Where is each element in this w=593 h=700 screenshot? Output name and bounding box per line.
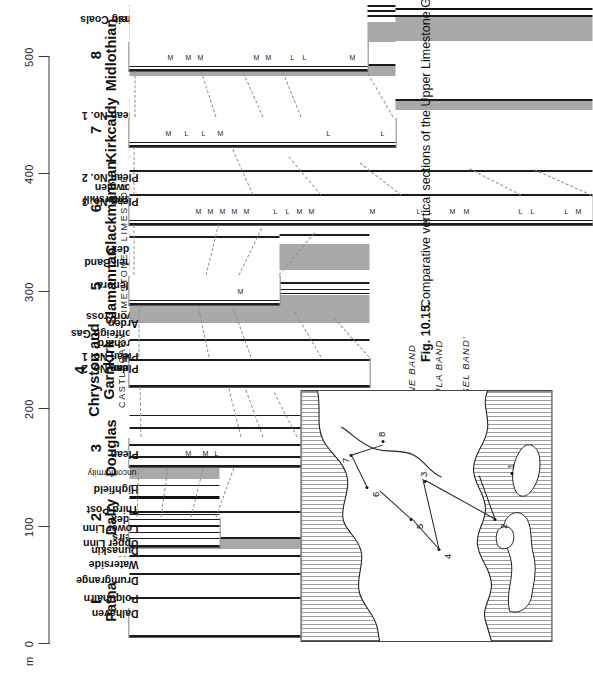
bed-sandstone [129,539,219,543]
correlation-line [138,305,139,357]
bed-sandstone [129,515,219,519]
section-number-7: 7 [88,97,102,162]
correlation-line [134,71,135,117]
marine-band-marker: M [202,450,208,457]
marine-band-marker: M [165,130,171,137]
bed-sandstone [129,575,315,595]
scale-unit-label: m [22,657,34,666]
locality-map: 1 2 3 4 5 6 7 8 [300,390,552,642]
lingula-band-marker: L [380,130,384,137]
marine-band-marker: M [369,208,375,215]
bed-label: Plean [110,449,138,461]
lingula-band-marker: L [214,450,218,457]
lingula-band-marker: L [285,208,289,215]
column-patna [128,608,316,638]
locality-dot-1 [510,472,513,475]
locality-label-1: 1 [504,464,515,469]
lingula-band-marker: L [201,130,205,137]
bed-label: Waterside [88,559,138,571]
bed-sandstone [129,238,279,300]
bed-label: Dalhaven [91,608,138,620]
scale-label-500: 500 [22,47,34,67]
lingula-band-marker: L [273,208,277,215]
figure-number: Fig. 10.15. [418,302,432,362]
bed-coal [129,514,219,515]
scale-tick-100 [38,526,49,527]
bed-sandstone [129,533,219,538]
map-landmass-north [301,391,379,641]
bed-sandstone [129,520,219,523]
bed-label: Polquhairn [83,593,138,605]
bed-sandstone [129,172,592,192]
bed-sandstone [129,323,369,337]
section-number-8: 8 [88,19,102,92]
marine-band-marker: M [237,288,243,295]
scale-bar: m 0 100 200 300 400 500 [26,56,60,644]
column-chryston-garnkirk [128,358,370,388]
bed-limestone [129,66,367,71]
marine-band-marker: M [219,208,225,215]
bed-coal [129,485,219,486]
scale-label-200: 200 [22,399,34,419]
bed-limestone [129,357,369,361]
lingula-band-marker: L [564,208,568,215]
locality-label-8: 8 [375,432,386,437]
marine-band-marker: M [217,130,223,137]
marine-band-marker: M [575,208,581,215]
bed-limestone [129,192,592,196]
scale-axis [48,56,49,644]
scale-tick-500 [38,56,49,57]
bed-limestone [129,220,592,225]
section-name-8: Midlothian [102,19,118,92]
bed-limestone [129,595,315,599]
marine-band-marker: M [253,54,259,61]
scale-tick-300 [38,291,49,292]
marine-band-marker: M [185,450,191,457]
locality-dot-8 [381,440,384,443]
section-name-7: Kirkcaldy [102,97,118,162]
marine-band-marker: M [308,208,314,215]
bed-label: Arden [108,318,138,330]
bed-sandstone [129,479,219,485]
marine-band-marker: M [195,208,201,215]
lingula-band-marker: L [290,54,294,61]
section-header-8: 8 Midlothian [88,19,118,92]
marine-band-marker: M [167,54,173,61]
marine-band-marker: M [207,208,213,215]
scale-label-100: 100 [22,517,34,537]
section-header-7: 7 Kirkcaldy [88,97,118,162]
bed-sandstone [129,499,219,509]
marine-band-marker: M [449,208,455,215]
lingula-band-marker: L [326,130,330,137]
locality-label-4: 4 [441,554,452,559]
bed-label: Drumgrange [76,575,138,587]
bed-limestone [129,337,369,341]
column-dalry [128,518,220,548]
marine-band-marker: M [463,208,469,215]
bed-limestone [129,509,219,513]
bed-limestone [129,142,395,147]
correlation-line [139,387,141,437]
bed-limestone [129,300,279,305]
bed-coal [129,532,219,533]
bed-limestone [129,523,219,527]
bed-limestone [129,633,315,637]
bed-limestone [129,543,219,547]
scale-label-300: 300 [22,282,34,302]
column-slamannan [128,276,280,306]
locality-label-2: 2 [497,524,508,529]
lingula-band-marker: L [518,208,522,215]
bed-label: Plean No. 2 [81,172,138,184]
scale-tick-400 [38,173,49,174]
bed-label: Third Post [86,504,138,516]
marine-band-marker: M [231,208,237,215]
scale-tick-200 [38,408,49,409]
bed-label: Upper Linn [83,538,138,550]
bed-sandstone [129,557,315,571]
bed-limestone [129,168,592,172]
unconformity-label: unconformity [87,468,136,478]
bed-limestone [129,383,369,387]
map-peninsula [496,527,514,549]
lingula-band-marker: L [302,54,306,61]
correlation-line [133,225,134,275]
